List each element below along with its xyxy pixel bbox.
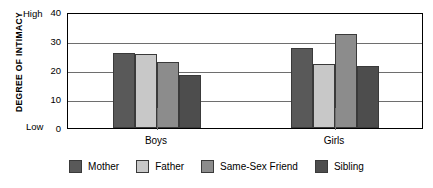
group-tick (335, 108, 336, 130)
y-axis-tick-label: 30 (41, 36, 61, 47)
bar (157, 62, 179, 128)
legend-item: Sibling (315, 160, 364, 173)
plot-area (67, 13, 423, 129)
y-axis-tick-label: 40 (41, 7, 61, 18)
group-tick (157, 108, 158, 130)
gridline (68, 43, 422, 44)
x-axis-category-label: Boys (145, 135, 167, 146)
legend-swatch-icon (201, 160, 214, 173)
y-axis-anchor-high: High (23, 8, 43, 19)
legend: MotherFatherSame-Sex FriendSibling (0, 160, 433, 173)
y-axis-title: DEGREE OF INTIMACY (14, 0, 24, 127)
legend-label: Same-Sex Friend (220, 161, 298, 172)
bar (335, 34, 357, 128)
y-axis-tick-label: 10 (41, 94, 61, 105)
bar (357, 66, 379, 128)
legend-label: Father (155, 161, 184, 172)
bar-chart: DEGREE OF INTIMACY High Low 010203040 Bo… (0, 0, 433, 188)
legend-item: Same-Sex Friend (201, 160, 298, 173)
bar (135, 54, 157, 128)
y-axis-tick-label: 20 (41, 65, 61, 76)
bar (113, 53, 135, 128)
legend-swatch-icon (69, 160, 82, 173)
legend-label: Sibling (334, 161, 364, 172)
legend-item: Father (136, 160, 184, 173)
legend-swatch-icon (136, 160, 149, 173)
y-axis-tick-label: 0 (41, 123, 61, 134)
x-axis-category-label: Girls (324, 135, 345, 146)
legend-item: Mother (69, 160, 119, 173)
bar (179, 75, 201, 128)
bar (313, 64, 335, 128)
legend-label: Mother (88, 161, 119, 172)
bar (291, 48, 313, 128)
legend-swatch-icon (315, 160, 328, 173)
